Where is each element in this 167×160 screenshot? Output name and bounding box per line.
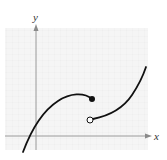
y-axis-label: y [32,11,38,23]
closed-endpoint [89,96,95,102]
y-axis-arrow-icon [34,24,39,31]
x-axis-label: x [153,130,159,142]
open-endpoint [87,117,93,123]
x-axis-arrow-icon [145,134,152,139]
graph: x y [0,0,167,160]
grid-lines [5,28,148,150]
